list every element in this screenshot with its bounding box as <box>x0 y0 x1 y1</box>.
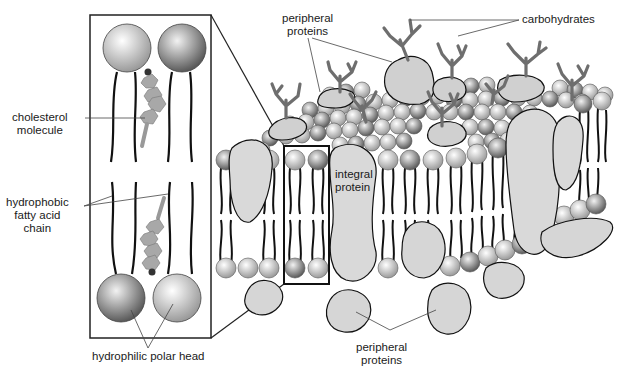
label-peripheral-top: peripheral proteins <box>282 12 333 38</box>
integral-protein <box>553 116 583 190</box>
inset-panel <box>90 15 211 338</box>
label-polar-head: hydrophilic polar head <box>92 350 205 363</box>
label-peripheral-bottom: peripheral proteins <box>356 341 407 367</box>
label-line: integral <box>335 168 373 181</box>
membrane-bilayer <box>216 20 613 334</box>
label-line: protein <box>335 181 373 194</box>
label-line: cholesterol <box>12 111 68 124</box>
label-line: fatty acid <box>6 209 69 222</box>
peripheral-protein <box>428 283 471 334</box>
membrane-diagram <box>0 0 618 373</box>
polar-head <box>158 24 206 72</box>
label-carbohydrates: carbohydrates <box>522 13 595 26</box>
peripheral-protein <box>245 280 283 314</box>
peripheral-protein <box>433 77 466 101</box>
label-line: hydrophobic <box>6 196 69 209</box>
label-integral-protein: integral protein <box>335 168 373 194</box>
peripheral-protein <box>385 56 435 104</box>
peripheral-protein <box>484 262 525 298</box>
polar-head <box>97 274 145 322</box>
integral-protein <box>330 144 377 280</box>
label-line: peripheral <box>356 341 407 354</box>
label-fatty-acid: hydrophobic fatty acid chain <box>6 196 69 235</box>
peripheral-protein <box>318 89 355 108</box>
label-line: proteins <box>356 354 407 367</box>
polar-head <box>103 24 151 72</box>
peripheral-protein <box>326 290 370 332</box>
peripheral-protein <box>428 122 467 147</box>
integral-protein <box>229 140 272 222</box>
polar-head <box>153 274 201 322</box>
label-line: chain <box>6 222 69 235</box>
label-line: molecule <box>12 124 68 137</box>
label-line: peripheral <box>282 12 333 25</box>
label-cholesterol: cholesterol molecule <box>12 111 68 137</box>
peripheral-protein <box>402 222 445 278</box>
label-line: proteins <box>282 25 333 38</box>
